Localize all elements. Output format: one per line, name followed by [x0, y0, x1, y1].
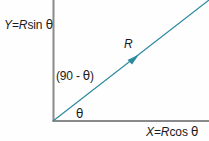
x-axis-label: X=Rcos θ	[146, 126, 198, 138]
y-axis-label: Y=Rsin θ	[4, 19, 53, 31]
resultant-vector-arrowhead	[128, 55, 140, 65]
complement-value: 90	[60, 69, 73, 83]
x-axis-symbol: X	[146, 125, 154, 139]
y-axis-equals: =	[12, 18, 19, 32]
vector-diagram-figure: Y=Rsin θ X=Rcos θ (90 - θ) θ R	[0, 0, 209, 141]
x-axis-equals: =	[154, 125, 161, 139]
y-axis-function: sin	[27, 18, 42, 32]
complement-minus: -	[76, 69, 80, 83]
complement-angle-symbol: θ	[83, 69, 90, 83]
theta-angle-label: θ	[76, 108, 83, 120]
x-axis-function: cos	[169, 125, 187, 139]
resultant-vector-group	[53, 0, 209, 121]
y-axis-symbol: Y	[4, 18, 12, 32]
complement-close-paren: )	[90, 69, 94, 83]
y-axis-angle: θ	[46, 18, 53, 32]
resultant-vector-label: R	[124, 38, 133, 50]
x-axis-angle: θ	[191, 125, 198, 139]
complement-angle-label: (90 - θ)	[56, 70, 94, 82]
